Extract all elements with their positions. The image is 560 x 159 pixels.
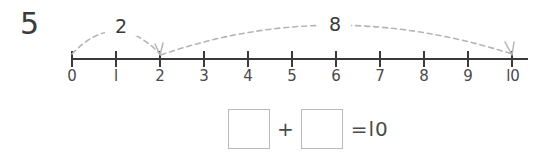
tick-label-5: 5	[277, 68, 307, 84]
jump-arrowhead-first	[155, 43, 163, 55]
tick-label-10: l0	[498, 68, 528, 84]
number-line-graphic	[0, 0, 560, 100]
tick-label-4: 4	[233, 68, 263, 84]
tick-label-2: 2	[145, 68, 175, 84]
tick-label-0: 0	[57, 68, 87, 84]
tick-label-6: 6	[321, 68, 351, 84]
tick-label-1: l	[101, 68, 131, 84]
tick-label-3: 3	[189, 68, 219, 84]
jump-label-second: 8	[319, 14, 351, 34]
second-addend-box[interactable]	[301, 109, 343, 149]
equation-row: + =l0	[228, 106, 389, 152]
tick-label-9: 9	[453, 68, 483, 84]
equation-result: =l0	[343, 119, 389, 139]
tick-label-7: 7	[365, 68, 395, 84]
plus-sign: +	[270, 119, 301, 139]
tick-label-8: 8	[409, 68, 439, 84]
worksheet-problem: 5 2 8 0 l 2 3 4 5 6 7 8 9 l	[0, 0, 560, 159]
first-addend-box[interactable]	[228, 109, 270, 149]
jump-label-first: 2	[105, 16, 137, 36]
